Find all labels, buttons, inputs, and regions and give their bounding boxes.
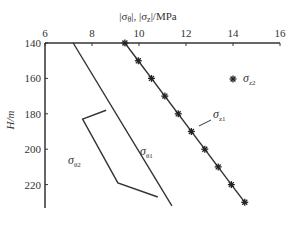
x-tick-label: 10 — [134, 27, 146, 39]
x-tick-label: 14 — [228, 27, 240, 39]
series-σz1 — [125, 43, 245, 202]
y-axis-title: H/m — [4, 110, 16, 130]
legend: σz2 — [230, 71, 257, 87]
x-tick-label: 16 — [275, 27, 287, 39]
x-axis-title: |σθ|, |σz|/MPa — [119, 10, 177, 24]
y-tick-label: 200 — [25, 143, 42, 155]
y-tick-label: 160 — [25, 72, 42, 84]
label-sigma-z1: σz1 — [213, 107, 226, 123]
x-tick-label: 12 — [181, 27, 192, 39]
series-σθ1 — [73, 43, 172, 206]
legend-label-sigma-z2: σz2 — [243, 71, 256, 87]
y-tick-label: 180 — [25, 108, 42, 120]
axes: 6810121416140160180200220 — [25, 27, 287, 208]
y-tick-label: 140 — [25, 37, 42, 49]
x-tick-label: 8 — [89, 27, 95, 39]
label-sigma-theta2: σθ2 — [68, 153, 81, 169]
y-tick-label: 220 — [25, 179, 42, 191]
star-marker-icon — [230, 76, 237, 83]
label-sigma-theta1: σθ1 — [140, 144, 153, 160]
leader-line-z1 — [199, 120, 211, 126]
x-tick-label: 6 — [42, 27, 48, 39]
stress-depth-chart: 6810121416140160180200220 |σθ|, |σz|/MPa… — [0, 0, 296, 231]
